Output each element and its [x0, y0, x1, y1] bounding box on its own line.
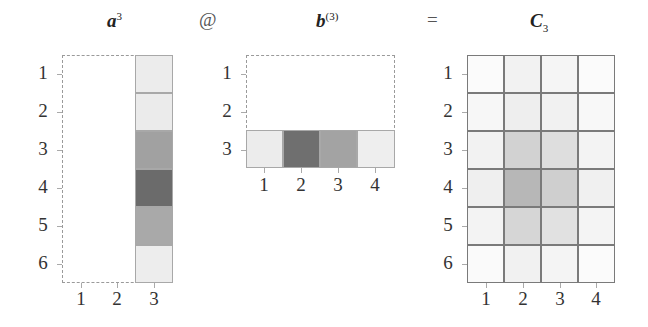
matmul-operator: @: [199, 9, 217, 31]
matrix-c-row-label: 3: [438, 139, 458, 159]
matrix-a-cell: [135, 131, 173, 169]
matrix-c-row-label: 6: [438, 253, 458, 273]
matrix-a-cell: [135, 169, 173, 207]
equals-operator: =: [427, 9, 438, 31]
matrix-c-cell: [467, 131, 504, 169]
matrix-c-cell: [578, 93, 615, 131]
tick-mark: [301, 168, 302, 173]
title-a-sup: 3: [117, 10, 123, 22]
matrix-c-cell: [504, 131, 541, 169]
matrix-b-col-label: 2: [291, 175, 311, 195]
matrix-c-cell: [467, 169, 504, 207]
matrix-c-cell: [578, 245, 615, 283]
tick-mark: [338, 168, 339, 173]
matrix-c-cell: [541, 93, 578, 131]
matrix-b-row-label: 1: [217, 63, 237, 83]
matrix-a-cell: [135, 93, 173, 131]
matrix-b-row-label: 2: [217, 101, 237, 121]
matrix-c-cell: [541, 245, 578, 283]
matrix-b-cell: [357, 130, 395, 168]
matrix-c-row-label: 1: [438, 63, 458, 83]
matrix-c-cell: [467, 55, 504, 93]
title-b-base: b: [316, 10, 326, 31]
matrix-a-col-label: 2: [107, 289, 127, 309]
matrix-c-cell: [578, 131, 615, 169]
tick-mark: [462, 264, 467, 265]
matrix-b-col-label: 4: [365, 175, 385, 195]
matrix-a-cell: [135, 207, 173, 245]
matrix-c-col-label: 2: [513, 289, 533, 309]
tick-mark: [462, 74, 467, 75]
matrix-c-cell: [541, 169, 578, 207]
matrix-c-cell: [504, 207, 541, 245]
tick-mark: [462, 188, 467, 189]
matrix-c-cell: [467, 207, 504, 245]
title-a-base: a: [107, 10, 117, 31]
matrix-a-active-column: [135, 55, 173, 283]
matrix-c-cell: [504, 169, 541, 207]
matrix-b-col-label: 3: [328, 175, 348, 195]
matrix-c-cell: [467, 93, 504, 131]
tick-mark: [57, 226, 62, 227]
tick-mark: [375, 168, 376, 173]
tick-mark: [241, 74, 246, 75]
matrix-a-col-label: 1: [71, 289, 91, 309]
title-b-sup: (3): [326, 10, 339, 22]
matrix-c-row-label: 4: [438, 177, 458, 197]
matrix-a-row-label: 2: [33, 101, 53, 121]
matrix-c-cell: [504, 55, 541, 93]
title-c-base: C: [530, 10, 543, 31]
matrix-b-row-label: 3: [217, 139, 237, 159]
tick-mark: [57, 74, 62, 75]
tick-mark: [241, 112, 246, 113]
matrix-b-cell: [283, 130, 320, 168]
tick-mark: [462, 112, 467, 113]
title-c: C3: [530, 10, 548, 34]
matrix-c-col-label: 4: [586, 289, 606, 309]
matrix-c-grid: [467, 55, 615, 283]
matrix-b-active-row: [246, 130, 395, 168]
matrix-a-cell: [135, 55, 173, 93]
matrix-c-cell: [578, 55, 615, 93]
matrix-c-row-label: 5: [438, 215, 458, 235]
matrix-c-cell: [541, 131, 578, 169]
matrix-c-cell: [504, 245, 541, 283]
matrix-c-cell: [467, 245, 504, 283]
title-b: b(3): [316, 10, 338, 32]
matrix-a-row-label: 5: [33, 215, 53, 235]
matrix-b-cell: [246, 130, 283, 168]
tick-mark: [241, 150, 246, 151]
matrix-c-cell: [541, 207, 578, 245]
matrix-a-row-label: 6: [33, 253, 53, 273]
matrix-c-col-label: 3: [550, 289, 570, 309]
matrix-a-cell: [135, 245, 173, 283]
matrix-c-cell: [504, 93, 541, 131]
matrix-a-row-label: 1: [33, 63, 53, 83]
tick-mark: [57, 188, 62, 189]
title-a: a3: [107, 10, 122, 32]
tick-mark: [462, 226, 467, 227]
tick-mark: [264, 168, 265, 173]
matrix-b-cell: [320, 130, 357, 168]
matrix-b-col-label: 1: [254, 175, 274, 195]
matrix-c-col-label: 1: [476, 289, 496, 309]
matrix-c-row-label: 2: [438, 101, 458, 121]
matrix-c-cell: [541, 55, 578, 93]
tick-mark: [57, 264, 62, 265]
matrix-a-col-label: 3: [144, 289, 164, 309]
matrix-a-row-label: 4: [33, 177, 53, 197]
tick-mark: [57, 112, 62, 113]
tick-mark: [57, 150, 62, 151]
matrix-a-row-label: 3: [33, 139, 53, 159]
tick-mark: [462, 150, 467, 151]
matrix-c-cell: [578, 207, 615, 245]
matrix-c-cell: [578, 169, 615, 207]
title-c-sub: 3: [543, 22, 549, 34]
